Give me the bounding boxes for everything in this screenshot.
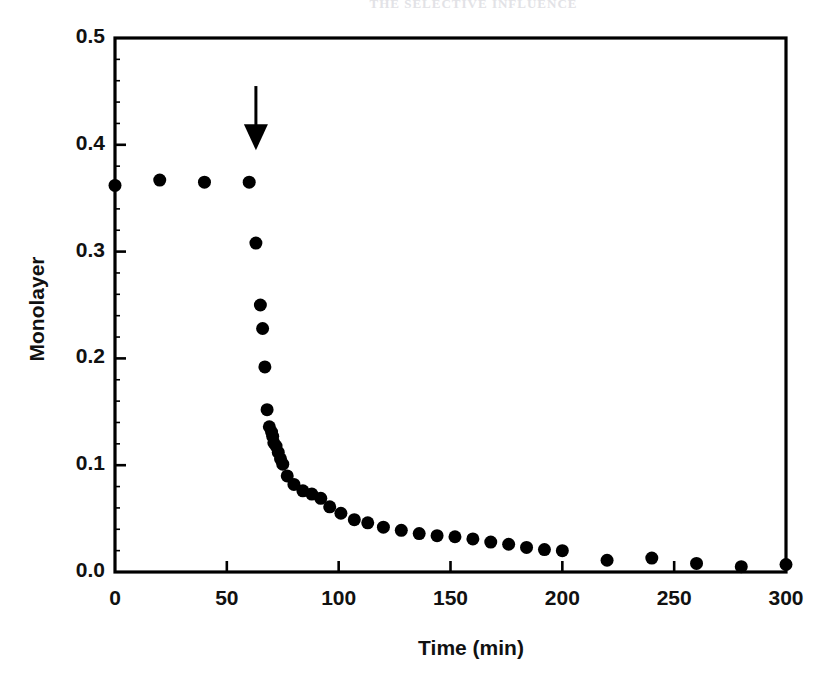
plot-frame [115,38,786,572]
data-point [556,544,569,557]
x-axis-tick-label: 150 [416,586,486,610]
data-point [153,174,166,187]
data-point [645,552,658,565]
injection-arrow [244,86,268,150]
data-point [243,176,256,189]
data-point [520,541,533,554]
x-axis-tick-label: 300 [751,586,821,610]
x-axis-title: Time (min) [0,636,827,660]
data-point [323,500,336,513]
data-point [735,560,748,573]
data-point [484,536,497,549]
scatter-plot-canvas [0,0,827,688]
data-point [377,521,390,534]
data-point [466,532,479,545]
data-point [334,507,347,520]
data-point [448,530,461,543]
y-axis-tick-label: 0.5 [41,24,105,48]
data-point [254,299,267,312]
data-point [198,176,211,189]
figure-monolayer-vs-time: Monolayer Time (min) 0501001502002503000… [0,0,827,688]
data-point [413,527,426,540]
x-axis-tick-label: 100 [304,586,374,610]
x-axis-tick-label: 0 [80,586,150,610]
y-axis-tick-label: 0.0 [41,558,105,582]
data-point [690,557,703,570]
data-point [601,554,614,567]
data-point [395,524,408,537]
data-point [276,458,289,471]
data-point [780,558,793,571]
y-axis-tick-label: 0.4 [41,131,105,155]
y-axis-tick-label: 0.3 [41,238,105,262]
data-point [502,538,515,551]
data-point [431,529,444,542]
data-series [109,174,793,574]
data-point [258,360,271,373]
x-axis-tick-label: 250 [639,586,709,610]
y-axis-tick-label: 0.1 [41,451,105,475]
data-point [361,516,374,529]
data-point [256,322,269,335]
x-axis-tick-label: 200 [527,586,597,610]
x-axis-tick-label: 50 [192,586,262,610]
arrow-head-icon [244,124,268,150]
data-point [249,237,262,250]
data-point [261,403,274,416]
data-point [348,513,361,526]
y-axis-tick-label: 0.2 [41,344,105,368]
data-point [109,179,122,192]
data-point [538,543,551,556]
